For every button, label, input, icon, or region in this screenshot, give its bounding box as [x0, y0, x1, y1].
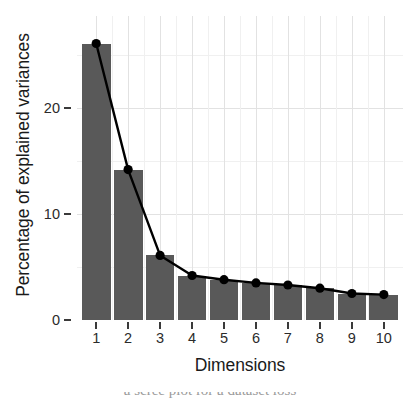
x-axis-title: Dimensions [84, 355, 396, 376]
x-tick-mark [287, 322, 289, 329]
x-tick-mark [319, 322, 321, 329]
x-tick-mark [223, 322, 225, 329]
x-tick-label: 10 [364, 330, 404, 346]
x-tick-mark [127, 322, 129, 329]
scree-plot-figure: Percentage of explained variances 01020 … [0, 0, 420, 402]
x-tick-mark [383, 322, 385, 329]
x-tick-mark [159, 322, 161, 329]
x-tick-mark [255, 322, 257, 329]
x-tick-mark [351, 322, 353, 329]
x-tick-mark [95, 322, 97, 329]
x-axis-ticks: 12345678910 [0, 0, 420, 402]
cropped-caption-text: a scree plot for a dataset loss [124, 392, 296, 395]
x-tick-mark [191, 322, 193, 329]
cropped-caption: a scree plot for a dataset loss [0, 392, 420, 402]
